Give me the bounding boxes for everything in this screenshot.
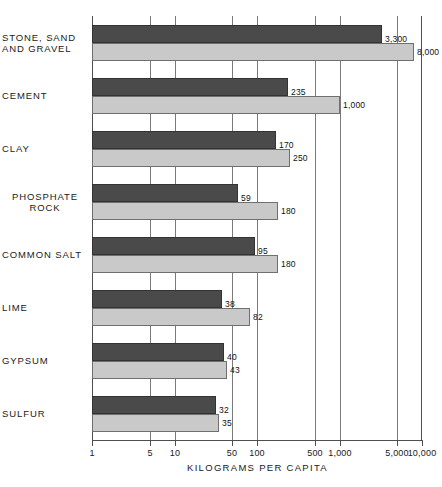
bar-light [92, 96, 340, 114]
category-label-line: CEMENT [2, 90, 88, 101]
x-tick-label: 100 [249, 448, 265, 458]
category-label-line: SULFUR [2, 408, 88, 419]
bar-chart: 3,3008,0002351,0001702505918095180388240… [0, 0, 442, 487]
x-tick-label: 10,000 [408, 448, 437, 458]
bar-value-label: 82 [253, 312, 263, 322]
bar-value-label: 8,000 [417, 47, 439, 57]
bar-value-label: 1,000 [343, 100, 365, 110]
x-tick-mark [257, 440, 258, 446]
bar-dark [92, 184, 238, 202]
bar-value-label: 35 [222, 418, 232, 428]
bar-light [92, 149, 290, 167]
x-tick-mark [92, 440, 93, 446]
bar-light [92, 414, 219, 432]
x-tick-mark [175, 440, 176, 446]
bar-light [92, 361, 227, 379]
plot-area: 3,3008,0002351,0001702505918095180388240… [92, 16, 422, 440]
gridline [340, 16, 341, 440]
category-label: LIME [2, 302, 88, 313]
x-tick-mark [397, 440, 398, 446]
x-tick-mark [315, 440, 316, 446]
bar-dark [92, 290, 222, 308]
x-tick-label: 50 [227, 448, 237, 458]
x-tick-label: 1,000 [328, 448, 352, 458]
category-label: CEMENT [2, 90, 88, 101]
category-label: PHOSPHATEROCK [2, 191, 88, 213]
category-label-line: GYPSUM [2, 355, 88, 366]
category-label-line: COMMON SALT [2, 249, 88, 260]
category-label-line: AND GRAVEL [2, 43, 88, 54]
bar-dark [92, 396, 216, 414]
bar-light [92, 43, 414, 61]
bar-dark [92, 25, 382, 43]
category-label: SULFUR [2, 408, 88, 419]
bar-value-label: 43 [230, 365, 240, 375]
bar-value-label: 40 [227, 352, 237, 362]
category-label: COMMON SALT [2, 249, 88, 260]
bar-dark [92, 343, 224, 361]
x-axis-title: KILOGRAMS PER CAPITA [92, 462, 423, 473]
category-label-line: STONE, SAND [2, 32, 88, 43]
x-tick-label: 5,000 [385, 448, 409, 458]
x-tick-mark [340, 440, 341, 446]
axis-line-right [421, 16, 422, 440]
bar-light [92, 255, 278, 273]
gridline [397, 16, 398, 440]
x-tick-mark [150, 440, 151, 446]
x-tick-label: 10 [170, 448, 180, 458]
bar-value-label: 180 [281, 206, 296, 216]
category-label-line: CLAY [2, 143, 88, 154]
bar-value-label: 180 [281, 259, 296, 269]
bar-value-label: 32 [219, 405, 229, 415]
x-tick-mark [232, 440, 233, 446]
category-label-line: ROCK [2, 202, 88, 213]
category-label-line: LIME [2, 302, 88, 313]
bar-light [92, 308, 250, 326]
x-tick-label: 5 [147, 448, 152, 458]
bar-dark [92, 78, 288, 96]
category-label: CLAY [2, 143, 88, 154]
bar-dark [92, 237, 255, 255]
category-label: GYPSUM [2, 355, 88, 366]
category-label-line: PHOSPHATE [2, 191, 88, 202]
bar-dark [92, 131, 276, 149]
x-tick-label: 1 [89, 448, 94, 458]
bar-light [92, 202, 278, 220]
x-tick-mark [422, 440, 423, 446]
category-label: STONE, SANDAND GRAVEL [2, 32, 88, 54]
x-tick-label: 500 [307, 448, 323, 458]
bar-value-label: 250 [293, 153, 308, 163]
gridline [315, 16, 316, 440]
